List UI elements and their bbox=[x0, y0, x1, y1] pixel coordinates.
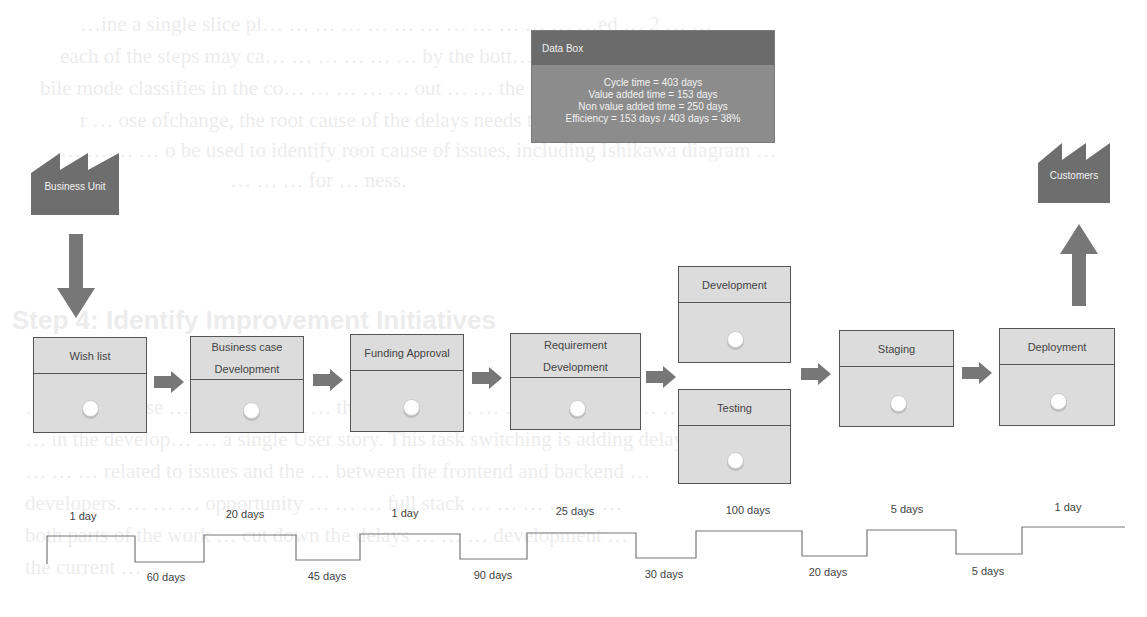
wait-time-label: 60 days bbox=[147, 571, 186, 583]
wait-time-label: 90 days bbox=[474, 569, 513, 581]
wait-time-label: 20 days bbox=[809, 566, 848, 578]
value-added-time-label: 1 day bbox=[1055, 501, 1082, 513]
value-added-time-label: 1 day bbox=[392, 507, 419, 519]
wait-time-label: 30 days bbox=[645, 568, 684, 580]
value-added-time-label: 100 days bbox=[726, 504, 771, 516]
value-added-time-label: 20 days bbox=[226, 508, 265, 520]
value-added-time-label: 1 day bbox=[70, 510, 97, 522]
value-added-time-label: 25 days bbox=[556, 505, 595, 517]
timeline-ladder bbox=[0, 0, 1147, 617]
wait-time-label: 45 days bbox=[308, 570, 347, 582]
wait-time-label: 5 days bbox=[972, 565, 1004, 577]
value-added-time-label: 5 days bbox=[891, 503, 923, 515]
